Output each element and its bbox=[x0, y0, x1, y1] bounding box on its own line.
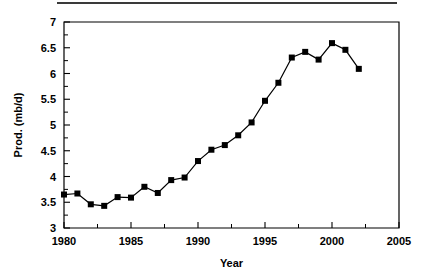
y-tick-label: 6 bbox=[50, 68, 56, 80]
data-point-marker bbox=[275, 80, 281, 86]
data-point-marker bbox=[182, 175, 188, 181]
x-tick-label: 1980 bbox=[52, 235, 76, 247]
data-point-marker bbox=[88, 201, 94, 207]
data-point-marker bbox=[128, 195, 134, 201]
data-point-marker bbox=[101, 203, 107, 209]
figure-container: 33.544.555.566.57 1980198519901995200020… bbox=[0, 0, 429, 280]
x-axis-title: Year bbox=[220, 257, 244, 269]
data-point-marker bbox=[329, 40, 335, 46]
y-tick-label: 3.5 bbox=[41, 196, 56, 208]
x-tick-label: 1985 bbox=[119, 235, 143, 247]
data-point-marker bbox=[115, 194, 121, 200]
y-tick-label: 5 bbox=[50, 119, 56, 131]
x-tick-label: 1990 bbox=[186, 235, 210, 247]
x-tick-label: 2005 bbox=[387, 235, 411, 247]
y-tick-label: 3 bbox=[50, 222, 56, 234]
data-point-marker bbox=[302, 49, 308, 55]
x-tick-label: 1995 bbox=[253, 235, 277, 247]
data-point-marker bbox=[289, 55, 295, 61]
x-axis-tick-marks bbox=[64, 222, 399, 228]
y-tick-label: 5.5 bbox=[41, 93, 56, 105]
series-line-prod bbox=[64, 43, 359, 206]
chart-svg: 33.544.555.566.57 1980198519901995200020… bbox=[0, 0, 429, 280]
data-point-marker bbox=[235, 132, 241, 138]
data-point-marker bbox=[195, 158, 201, 164]
x-axis-tick-labels: 198019851990199520002005 bbox=[52, 235, 411, 247]
line-chart: 33.544.555.566.57 1980198519901995200020… bbox=[0, 0, 429, 280]
data-point-marker bbox=[74, 191, 80, 197]
data-point-marker bbox=[168, 177, 174, 183]
y-tick-label: 7 bbox=[50, 16, 56, 28]
y-axis-title: Prod. (mb/d) bbox=[12, 92, 24, 157]
data-point-marker bbox=[262, 98, 268, 104]
data-point-marker bbox=[155, 190, 161, 196]
y-tick-label: 4 bbox=[50, 171, 57, 183]
data-point-marker bbox=[249, 119, 255, 125]
y-tick-label: 6.5 bbox=[41, 42, 56, 54]
data-point-marker bbox=[222, 142, 228, 148]
data-point-marker bbox=[342, 47, 348, 53]
y-tick-label: 4.5 bbox=[41, 145, 56, 157]
data-point-marker bbox=[61, 192, 67, 198]
data-point-marker bbox=[316, 57, 322, 63]
plot-frame bbox=[64, 22, 399, 228]
y-axis-tick-labels: 33.544.555.566.57 bbox=[41, 16, 57, 234]
x-tick-label: 2000 bbox=[320, 235, 344, 247]
data-point-marker bbox=[356, 66, 362, 72]
data-point-marker bbox=[141, 184, 147, 190]
data-point-marker bbox=[208, 147, 214, 153]
series-markers-prod bbox=[61, 40, 362, 209]
